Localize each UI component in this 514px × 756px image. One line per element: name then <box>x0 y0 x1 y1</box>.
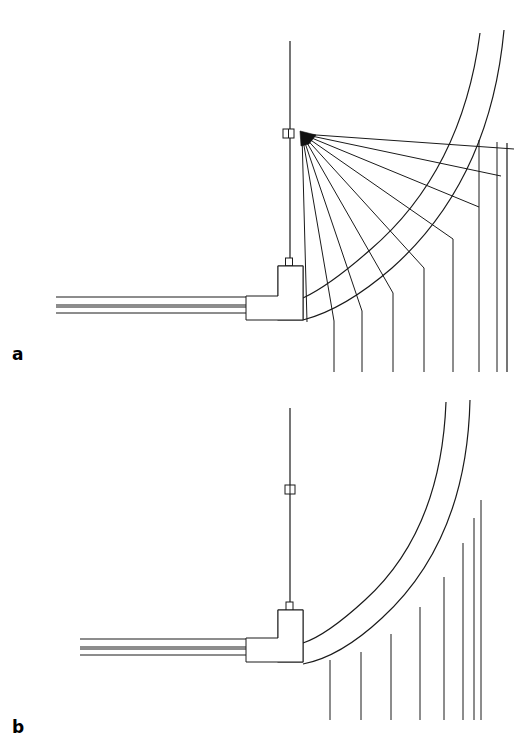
hangers-a <box>334 143 507 372</box>
panel-a: a <box>0 0 514 380</box>
deck-arcs-b <box>303 400 470 664</box>
mast-collar-a <box>283 129 294 138</box>
cable-hub-a <box>300 131 316 146</box>
girder-rails-a <box>56 297 246 313</box>
panel-label-a: a <box>12 346 23 363</box>
girder-rails-b <box>80 639 246 655</box>
mast-collar-b <box>285 485 295 494</box>
panel-label-b: b <box>12 719 24 736</box>
panel-b: b <box>0 380 514 756</box>
deck-block-a <box>246 266 303 320</box>
base-collar-a <box>286 258 293 266</box>
panel-a-drawing <box>0 0 514 380</box>
deck-block-b <box>246 610 303 662</box>
panel-b-drawing <box>0 380 514 756</box>
figure-root: a <box>0 0 514 756</box>
stay-cable-fan-a <box>302 134 514 322</box>
hangers-b <box>330 500 481 720</box>
deck-arcs-a <box>303 30 504 320</box>
